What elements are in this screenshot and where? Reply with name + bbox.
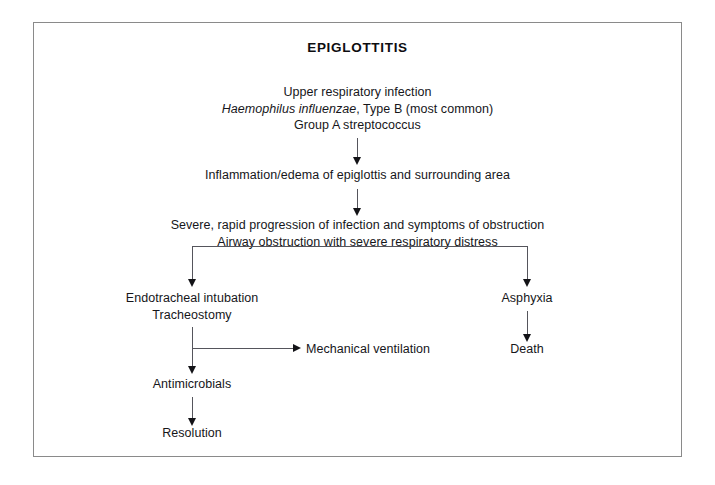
node-antimicrobials: Antimicrobials xyxy=(112,376,272,393)
node-cause: Upper respiratory infection Haemophilus … xyxy=(0,84,715,134)
node-ventilation: Mechanical ventilation xyxy=(306,341,430,358)
arrowhead-rail-to-intubation xyxy=(188,279,196,287)
node-cause-line-2: Haemophilus influenzae, Type B (most com… xyxy=(0,101,715,118)
node-inflammation: Inflammation/edema of epiglottis and sur… xyxy=(0,167,715,184)
node-asphyxia: Asphyxia xyxy=(447,290,607,307)
node-death: Death xyxy=(447,341,607,358)
connector-intubation-to-antimicrobials xyxy=(192,327,193,371)
diagram-title: EPIGLOTTITIS xyxy=(0,40,715,55)
node-resolution-line-1: Resolution xyxy=(112,425,272,442)
pathogen-name: Haemophilus influenzae xyxy=(222,102,357,116)
node-death-line-1: Death xyxy=(447,341,607,358)
connector-rail-to-asphyxia xyxy=(527,246,528,282)
pathogen-qualifier: , Type B (most common) xyxy=(356,102,493,116)
connector-split-rail xyxy=(192,246,528,247)
node-ventilation-line-1: Mechanical ventilation xyxy=(306,341,430,358)
arrowhead-intubation-to-antimicrobials xyxy=(188,366,196,374)
arrowhead-inflammation-to-progression xyxy=(353,208,361,216)
node-progression-line-1: Severe, rapid progression of infection a… xyxy=(0,217,715,234)
arrowhead-spine-to-ventilation xyxy=(293,344,301,352)
node-resolution: Resolution xyxy=(112,425,272,442)
node-intubation: Endotracheal intubation Tracheostomy xyxy=(92,290,292,323)
arrowhead-cause-to-inflammation xyxy=(353,157,361,165)
node-intubation-line-2: Tracheostomy xyxy=(92,307,292,324)
node-cause-line-3: Group A streptococcus xyxy=(0,117,715,134)
diagram-canvas: EPIGLOTTITIS Upper respiratory infection… xyxy=(0,0,715,485)
node-intubation-line-1: Endotracheal intubation xyxy=(92,290,292,307)
connector-rail-to-intubation xyxy=(192,246,193,282)
node-antimicrobials-line-1: Antimicrobials xyxy=(112,376,272,393)
node-asphyxia-line-1: Asphyxia xyxy=(447,290,607,307)
node-cause-line-1: Upper respiratory infection xyxy=(0,84,715,101)
node-inflammation-line-1: Inflammation/edema of epiglottis and sur… xyxy=(0,167,715,184)
arrowhead-rail-to-asphyxia xyxy=(523,279,531,287)
connector-spine-to-ventilation xyxy=(192,348,298,349)
